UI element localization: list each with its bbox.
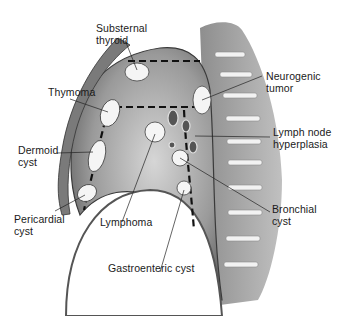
label-gastroenteric-cyst: Gastroenteric cyst: [108, 262, 194, 274]
label-lymph-node-hyperplasia: Lymph node hyperplasia: [273, 126, 331, 150]
label-bronchial-cyst: Bronchial cyst: [272, 203, 317, 227]
lymphoma-mass: [145, 122, 165, 142]
label-dermoid-cyst: Dermoid cyst: [18, 144, 58, 168]
thyroid-mass: [125, 63, 149, 81]
label-pericardial-cyst: Pericardial cyst: [14, 213, 65, 237]
gastroenteric-mass: [177, 181, 191, 195]
label-thymoma: Thymoma: [48, 86, 95, 98]
label-substernal-thyroid: Substernal thyroid: [96, 22, 147, 46]
label-lymphoma: Lymphoma: [100, 216, 152, 228]
label-neurogenic-tumor: Neurogenic tumor: [266, 70, 321, 94]
